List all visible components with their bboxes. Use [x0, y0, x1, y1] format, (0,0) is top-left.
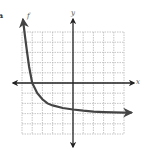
y-axis-label: y — [71, 10, 75, 17]
function-curve-f — [23, 20, 131, 113]
function-label: f — [27, 13, 30, 20]
problem-label: a — [0, 12, 3, 19]
x-axis-label: x — [136, 79, 140, 86]
function-graph — [0, 0, 143, 156]
